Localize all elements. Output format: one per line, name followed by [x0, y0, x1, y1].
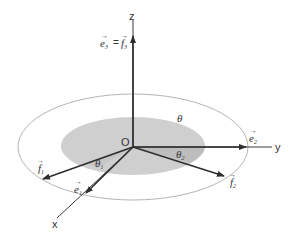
coordinate-diagram: z y x O e3 = f3 → → e2 → e1 → f1 → f2 → …: [0, 0, 295, 237]
f1-label: f1 →: [37, 157, 44, 175]
svg-text:=: =: [113, 37, 119, 48]
svg-text:→: →: [101, 32, 108, 39]
svg-text:→: →: [75, 178, 82, 185]
f2-label: f2 →: [229, 171, 236, 189]
y-axis-label: y: [275, 141, 281, 153]
svg-text:→: →: [250, 127, 257, 134]
z-axis-label: z: [129, 10, 135, 22]
svg-text:→: →: [229, 171, 236, 178]
theta-label: θ: [177, 112, 183, 124]
svg-text:→: →: [121, 32, 128, 39]
x-axis-label: x: [52, 218, 58, 230]
e1-label: e1 →: [74, 178, 82, 196]
e2-label: e2 →: [249, 127, 257, 145]
e3-equals-f3-label: e3 = f3 → →: [100, 32, 128, 50]
origin-label: O: [121, 136, 130, 148]
svg-text:→: →: [37, 157, 44, 164]
